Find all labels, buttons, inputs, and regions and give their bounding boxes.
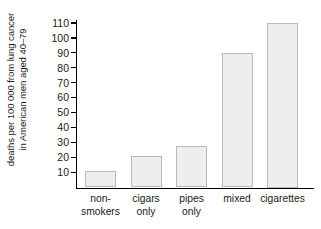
y-axis-title-line-1: deaths per 100 000 from lung cancer: [5, 13, 17, 166]
y-axis-tick-label: 40: [29, 122, 69, 133]
x-axis-label: cigars only: [123, 193, 169, 218]
y-axis-tick: [71, 37, 76, 38]
y-axis-tick-label: 110: [29, 18, 69, 29]
y-axis-tick-label: 80: [29, 63, 69, 74]
y-axis-tick: [71, 97, 76, 98]
y-axis-tick: [71, 22, 76, 23]
bar-chart: deaths per 100 000 from lung cancer in A…: [0, 0, 321, 229]
y-axis-tick: [71, 112, 76, 113]
y-axis-title: deaths per 100 000 from lung cancer in A…: [2, 2, 32, 177]
x-axis-label: non- smokers: [78, 193, 124, 218]
y-axis-tick: [71, 142, 76, 143]
x-axis-label: pipes only: [169, 193, 215, 218]
bar: [85, 171, 116, 187]
bar: [131, 156, 162, 187]
y-axis-tick: [71, 127, 76, 128]
y-axis-tick-label: 100: [29, 33, 69, 44]
bar: [222, 53, 253, 188]
y-axis-tick-label: 20: [29, 152, 69, 163]
y-axis-tick: [71, 157, 76, 158]
y-axis-tick: [71, 52, 76, 53]
x-axis-label: cigarettes: [260, 193, 306, 206]
y-axis-tick-label: 90: [29, 48, 69, 59]
y-axis-line: [76, 20, 77, 188]
x-axis-label: mixed: [214, 193, 260, 206]
y-axis-tick-label: 60: [29, 92, 69, 103]
y-axis-tick-label: 70: [29, 78, 69, 89]
y-axis-title-line-2: in American men aged 40–79: [17, 28, 29, 150]
y-axis-tick-label: 30: [29, 137, 69, 148]
y-axis-tick: [71, 82, 76, 83]
bar: [267, 23, 298, 188]
bar: [176, 146, 207, 188]
y-axis-tick: [71, 172, 76, 173]
y-axis-tick: [71, 67, 76, 68]
x-axis-line: [76, 188, 314, 189]
y-axis-tick-label: 50: [29, 107, 69, 118]
y-axis-tick-label: 10: [29, 167, 69, 178]
